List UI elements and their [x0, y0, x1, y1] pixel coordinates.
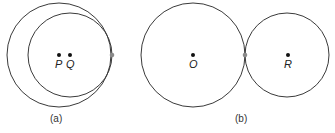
center-point-r — [286, 53, 290, 57]
label-p: P — [55, 58, 63, 70]
caption-a: (a) — [50, 113, 62, 124]
tangent-point-b — [243, 53, 248, 58]
label-q: Q — [66, 58, 75, 70]
center-point-q — [68, 53, 72, 57]
caption-b: (b) — [235, 113, 247, 124]
tangent-circles-figure: P Q (a) O R (b) — [0, 0, 335, 133]
tangent-point-a — [110, 53, 115, 58]
center-point-p — [57, 53, 61, 57]
panel-a: P Q (a) — [7, 3, 114, 124]
label-r: R — [284, 58, 292, 70]
center-point-o — [191, 53, 195, 57]
panel-b: O R (b) — [141, 3, 329, 124]
label-o: O — [189, 58, 198, 70]
